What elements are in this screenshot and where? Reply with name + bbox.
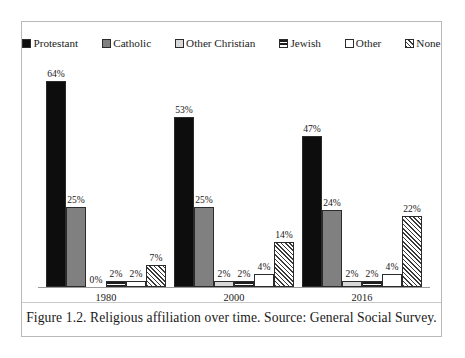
bar-value-label-catholic-2016: 24% <box>323 197 341 208</box>
bar-value-label-other-2000: 4% <box>258 261 271 272</box>
x-tick-2000: 2000 <box>224 292 245 303</box>
bar-value-label-other-1980: 2% <box>130 268 143 279</box>
bar-catholic-2016[interactable] <box>322 210 342 287</box>
bar-value-label-protestant-2000: 53% <box>175 104 193 115</box>
chart-area: Protestant Catholic Other Christian Jewi… <box>22 22 441 303</box>
bar-jewish-2016[interactable] <box>362 281 382 287</box>
bar-value-label-jewish-2000: 2% <box>238 268 251 279</box>
legend-item-jewish[interactable]: Jewish <box>279 37 320 49</box>
x-axis-tick-labels: 198020002016 <box>38 292 430 308</box>
figure-container: Protestant Catholic Other Christian Jewi… <box>21 21 442 337</box>
bar-catholic-1980[interactable] <box>66 207 86 287</box>
figure-caption: Figure 1.2. Religious affiliation over t… <box>22 310 441 326</box>
legend-swatch-other-icon <box>345 39 354 48</box>
chart-legend: Protestant Catholic Other Christian Jewi… <box>22 30 441 56</box>
bar-group-2016: 47%24%2%2%4%22% <box>302 62 422 287</box>
bar-protestant-1980[interactable] <box>46 81 66 287</box>
bar-group-1980: 64%25%0%2%2%7% <box>46 62 166 287</box>
bar-group-2000: 53%25%2%2%4%14% <box>174 62 294 287</box>
bar-other-2000[interactable] <box>254 274 274 287</box>
legend-item-catholic[interactable]: Catholic <box>102 37 151 49</box>
plot-area: 64%25%0%2%2%7%53%25%2%2%4%14%47%24%2%2%4… <box>38 62 430 288</box>
legend-swatch-none-icon <box>405 39 414 48</box>
legend-label-jewish: Jewish <box>290 37 320 49</box>
legend-swatch-jewish-icon <box>279 39 288 48</box>
legend-swatch-other-christian-icon <box>175 39 184 48</box>
bar-value-label-none-2016: 22% <box>403 203 421 214</box>
bar-value-label-jewish-2016: 2% <box>366 268 379 279</box>
bar-value-label-catholic-2000: 25% <box>195 194 213 205</box>
legend-swatch-catholic-icon <box>102 39 111 48</box>
bar-value-label-protestant-2016: 47% <box>303 123 321 134</box>
legend-item-none[interactable]: None <box>405 37 440 49</box>
bar-value-label-none-1980: 7% <box>150 252 163 263</box>
legend-label-other-christian: Other Christian <box>186 37 255 49</box>
x-axis-line <box>38 287 430 288</box>
bar-value-label-none-2000: 14% <box>275 229 293 240</box>
bar-other-2016[interactable] <box>382 274 402 287</box>
bar-none-1980[interactable] <box>146 265 166 288</box>
bar-value-label-other-christian-1980: 0% <box>90 274 103 285</box>
legend-label-other: Other <box>356 37 381 49</box>
bar-jewish-2000[interactable] <box>234 281 254 287</box>
bar-catholic-2000[interactable] <box>194 207 214 287</box>
bar-value-label-catholic-1980: 25% <box>67 194 85 205</box>
legend-item-other-christian[interactable]: Other Christian <box>175 37 255 49</box>
x-tick-1980: 1980 <box>96 292 117 303</box>
legend-swatch-protestant-icon <box>22 39 31 48</box>
bar-value-label-protestant-1980: 64% <box>47 68 65 79</box>
bar-value-label-other-2016: 4% <box>386 261 399 272</box>
bar-other-1980[interactable] <box>126 281 146 287</box>
legend-label-catholic: Catholic <box>113 37 151 49</box>
bar-value-label-jewish-1980: 2% <box>110 268 123 279</box>
bar-protestant-2016[interactable] <box>302 136 322 287</box>
bar-jewish-1980[interactable] <box>106 281 126 287</box>
legend-item-protestant[interactable]: Protestant <box>22 37 78 49</box>
bar-value-label-other-christian-2000: 2% <box>218 268 231 279</box>
bar-other-christian-2000[interactable] <box>214 281 234 287</box>
legend-label-protestant: Protestant <box>33 37 78 49</box>
bar-value-label-other-christian-2016: 2% <box>346 268 359 279</box>
bar-protestant-2000[interactable] <box>174 117 194 287</box>
bar-none-2000[interactable] <box>274 242 294 287</box>
legend-label-none: None <box>416 37 440 49</box>
x-tick-2016: 2016 <box>352 292 373 303</box>
bar-other-christian-2016[interactable] <box>342 281 362 287</box>
legend-item-other[interactable]: Other <box>345 37 381 49</box>
bar-none-2016[interactable] <box>402 216 422 287</box>
